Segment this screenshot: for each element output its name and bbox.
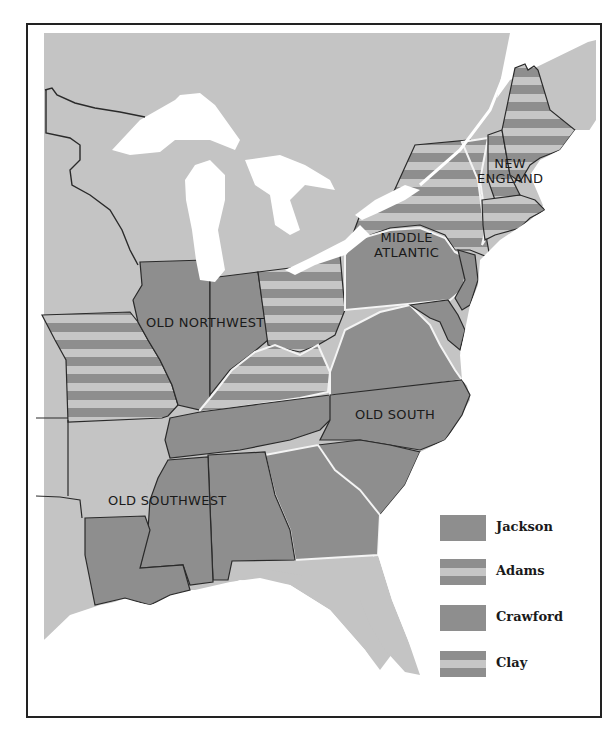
region-label-line: OLD NORTHWEST bbox=[146, 315, 265, 330]
legend-item-adams: Adams bbox=[440, 559, 600, 585]
region-label-line: OLD SOUTHWEST bbox=[108, 493, 227, 508]
region-label-middle-atlantic: MIDDLE ATLANTIC bbox=[374, 230, 439, 260]
legend-label: Crawford bbox=[496, 609, 563, 624]
legend-label: Jackson bbox=[496, 519, 553, 534]
legend-item-jackson: Jackson bbox=[440, 515, 600, 541]
legend-label: Adams bbox=[496, 563, 545, 578]
legend-item-crawford: Crawford bbox=[440, 605, 600, 631]
legend-label: Clay bbox=[496, 655, 527, 670]
region-label-line: OLD SOUTH bbox=[355, 407, 435, 422]
region-label-line: MIDDLE bbox=[374, 230, 439, 245]
legend-swatch-striped bbox=[440, 559, 486, 585]
legend-swatch-striped bbox=[440, 651, 486, 677]
region-label-old-south: OLD SOUTH bbox=[355, 407, 435, 422]
region-label-line: ENGLAND bbox=[477, 171, 543, 186]
region-label-old-southwest: OLD SOUTHWEST bbox=[108, 493, 227, 508]
legend-swatch-solid bbox=[440, 515, 486, 541]
region-label-line: NEW bbox=[477, 156, 543, 171]
region-label-new-england: NEW ENGLAND bbox=[477, 156, 543, 186]
region-label-line: ATLANTIC bbox=[374, 245, 439, 260]
legend-swatch-solid bbox=[440, 605, 486, 631]
election-map bbox=[0, 0, 616, 744]
legend-item-clay: Clay bbox=[440, 651, 600, 677]
region-label-old-northwest: OLD NORTHWEST bbox=[146, 315, 265, 330]
